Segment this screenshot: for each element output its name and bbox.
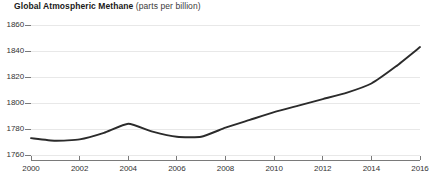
y-axis-tick-label: 1800 [0,99,24,107]
gridlines [31,25,420,155]
y-axis-tick-label: 1840 [0,47,24,55]
x-axis-tick-label: 2012 [308,165,338,173]
x-axis-tick-label: 2002 [65,165,95,173]
y-axis-tick-label: 1760 [0,151,24,159]
y-axis-tick-label: 1780 [0,125,24,133]
x-axis-tick-label: 2006 [162,165,192,173]
methane-trend-line [31,47,420,141]
y-axis-tick-label: 1820 [0,73,24,81]
chart-plot-area [0,0,434,191]
data-series-line [31,47,420,141]
x-axis-ticks [31,156,420,160]
methane-chart: Global Atmospheric Methane (parts per bi… [0,0,434,191]
x-axis-tick-label: 2010 [259,165,289,173]
x-axis-tick-label: 2008 [211,165,241,173]
x-axis-tick-label: 2000 [16,165,46,173]
y-axis-ticks [25,25,31,155]
y-axis-tick-label: 1860 [0,21,24,29]
x-axis-tick-label: 2004 [113,165,143,173]
x-axis-tick-label: 2014 [356,165,386,173]
x-axis-tick-label: 2016 [405,165,434,173]
